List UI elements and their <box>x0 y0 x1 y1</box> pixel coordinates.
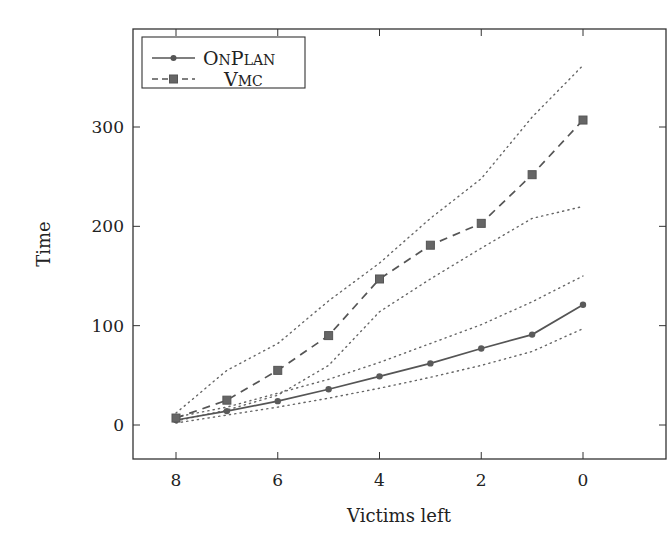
x-tick-label: 2 <box>476 470 487 490</box>
plot-frame <box>133 29 666 459</box>
onplan-point <box>224 408 230 414</box>
onplan-point <box>529 331 535 337</box>
legend-square-marker-icon <box>170 75 178 83</box>
onplan-point <box>325 386 331 392</box>
y-tick-label: 300 <box>92 117 124 137</box>
x-tick-label: 6 <box>272 470 283 490</box>
vmc-point <box>223 396 231 404</box>
x-axis-label: Victims left <box>346 505 452 526</box>
onplan-point <box>275 398 281 404</box>
legend-circle-marker-icon <box>171 55 177 61</box>
vmc-upper-bound-line <box>176 65 583 413</box>
onplan-point <box>376 373 382 379</box>
vmc-point <box>477 219 485 227</box>
vmc-point <box>172 414 180 422</box>
onplan-point <box>427 360 433 366</box>
x-tick-label: 8 <box>171 470 182 490</box>
vmc-point <box>579 116 587 124</box>
line-chart: 86420 0100200300 Victims left Time ONPLA… <box>0 0 670 553</box>
confidence-bands <box>176 65 583 423</box>
series-markers <box>172 116 587 423</box>
y-axis-label: Time <box>33 221 54 266</box>
y-tick-label: 100 <box>92 316 124 336</box>
legend: ONPLAN VMC <box>142 37 305 90</box>
x-axis-ticks: 86420 <box>171 29 589 490</box>
onplan-point <box>580 302 586 308</box>
y-tick-label: 0 <box>113 415 124 435</box>
vmc-point <box>528 171 536 179</box>
y-tick-label: 200 <box>92 216 124 236</box>
vmc-point <box>325 332 333 340</box>
vmc-point <box>274 366 282 374</box>
x-tick-label: 0 <box>578 470 589 490</box>
x-tick-label: 4 <box>374 470 385 490</box>
onplan-point <box>478 345 484 351</box>
vmc-point <box>426 241 434 249</box>
onplan-upper-bound-line <box>176 276 583 417</box>
vmc-point <box>376 275 384 283</box>
